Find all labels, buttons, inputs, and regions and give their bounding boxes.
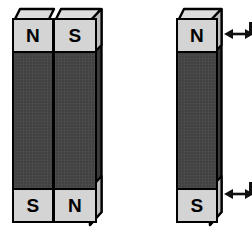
- left-magnet-south-pole: S: [14, 188, 52, 221]
- single-magnet-south-label: S: [190, 196, 203, 215]
- magnet-pair: N S S N: [0, 0, 110, 234]
- left-magnet-north-label: N: [26, 26, 40, 45]
- bottom-arrow-icon: [224, 186, 252, 202]
- pair-right-magnet-bottom-label: N: [68, 196, 82, 215]
- single-magnet-north-pole: N: [178, 20, 216, 53]
- single-magnet-south-pole: S: [178, 188, 216, 221]
- pair-right-magnet-top-label: S: [68, 26, 81, 45]
- single-magnet-front: N S: [176, 18, 218, 223]
- top-arrow-icon: [224, 26, 252, 42]
- pair-right-magnet-south-pole: S: [55, 20, 95, 53]
- left-magnet-north-pole: N: [14, 20, 52, 53]
- diagram-canvas: N S S N: [0, 0, 252, 234]
- pair-right-magnet-north-pole: N: [55, 188, 95, 221]
- single-magnet-north-label: N: [190, 26, 204, 45]
- pair-right-magnet-front: S N: [53, 18, 97, 223]
- top-edge-tick: [249, 22, 252, 34]
- left-magnet-south-label: S: [26, 196, 39, 215]
- left-magnet-front: N S: [12, 18, 54, 223]
- bottom-edge-tick: [249, 182, 252, 194]
